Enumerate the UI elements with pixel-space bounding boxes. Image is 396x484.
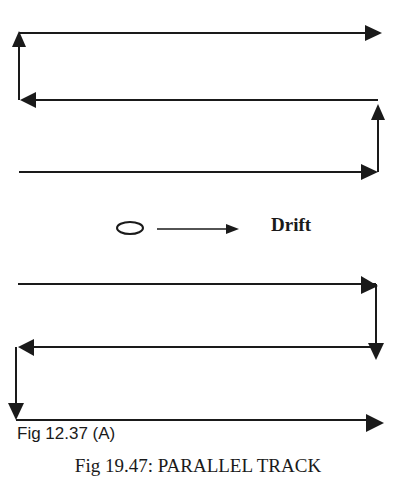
lower-track-group [16, 284, 376, 420]
arrow-left-icon [20, 92, 36, 108]
drift-label: Drift [271, 214, 311, 236]
drift-legend [117, 222, 239, 234]
figure-caption: Fig 19.47: PARALLEL TRACK [0, 455, 396, 477]
arrow-left-icon [18, 339, 34, 356]
arrow-right-icon [365, 25, 382, 41]
ellipse-icon [117, 222, 143, 234]
arrow-right-icon [366, 414, 384, 432]
upper-track-group [19, 33, 378, 172]
figure-subcaption: Fig 12.37 (A) [17, 424, 115, 444]
lower-arrowheads [8, 276, 384, 432]
parallel-track-diagram [0, 0, 396, 484]
upper-arrowheads [12, 25, 385, 180]
arrow-up-icon [371, 104, 385, 120]
arrow-down-icon [8, 403, 24, 420]
arrow-right-icon [226, 224, 239, 234]
arrow-right-icon [361, 164, 378, 180]
arrow-down-icon [368, 343, 384, 360]
